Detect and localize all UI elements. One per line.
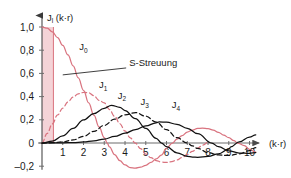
chart-svg: 12345678910 1,00,80,60,40,20–0,2 J0J1J2J… <box>0 0 291 178</box>
y-tick-label: 0 <box>28 138 34 149</box>
y-tick-label: 0,8 <box>20 45 34 56</box>
x-axis-title: (k·r) <box>269 138 286 149</box>
annotation-s-streuung: S-Streuung <box>129 57 177 68</box>
x-tick-label: 4 <box>122 147 128 158</box>
y-tick-label: 0,6 <box>20 68 34 79</box>
y-tick-label: 0,2 <box>20 114 34 125</box>
y-axis-title: Jl (k·r) <box>47 12 73 24</box>
x-tick-label: 3 <box>101 147 107 158</box>
x-tick-label: 1 <box>60 147 66 158</box>
bessel-function-chart: 12345678910 1,00,80,60,40,20–0,2 J0J1J2J… <box>0 0 291 178</box>
x-tick-label: 2 <box>81 147 87 158</box>
y-tick-label: –0,2 <box>15 161 35 172</box>
y-tick-label: 0,4 <box>20 91 34 102</box>
shaded-region-s-streuung <box>42 27 53 143</box>
y-tick-label: 1,0 <box>20 22 34 33</box>
